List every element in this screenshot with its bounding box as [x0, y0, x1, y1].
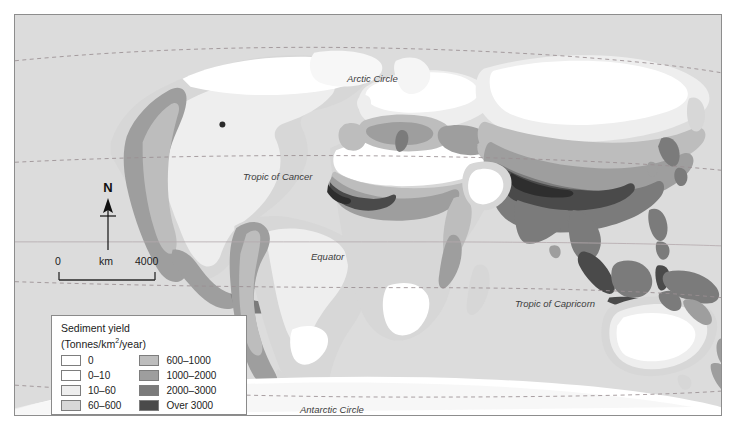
scale-bar-graphic: [55, 269, 171, 283]
legend-item: 2000–3000: [139, 384, 216, 398]
legend-item: 60–600: [61, 399, 121, 413]
legend-swatch: [139, 400, 159, 411]
legend-item: 0–10: [61, 369, 121, 383]
legend-label: 60–600: [88, 400, 121, 411]
legend-swatch: [61, 370, 81, 381]
scale-min-label: 0: [55, 255, 61, 267]
legend-label: Over 3000: [166, 400, 213, 411]
legend-column-left: 0 0–10 10–60 60–600: [61, 354, 121, 414]
label-equator: Equator: [311, 251, 344, 262]
legend-label: 0: [88, 355, 94, 366]
legend-box: Sediment yield (Tonnes/km2/year) 0 0–10: [51, 315, 247, 415]
map-frame: Arctic Circle Tropic of Cancer Equator T…: [14, 14, 722, 416]
label-arctic-circle: Arctic Circle: [347, 73, 398, 84]
legend-swatch: [61, 400, 81, 411]
legend-column-right: 600–1000 1000–2000 2000–3000 Over 3000: [139, 354, 216, 414]
legend-label: 10–60: [88, 385, 116, 396]
legend-swatch: [61, 355, 81, 366]
north-arrow-label: N: [93, 181, 123, 194]
legend-swatch: [61, 385, 81, 396]
legend-item: 10–60: [61, 384, 121, 398]
legend-item: Over 3000: [139, 399, 216, 413]
scale-max-label: 4000: [135, 255, 158, 267]
scale-bar-labels: 0 km 4000: [55, 255, 171, 269]
legend-title-line2: (Tonnes/km2/year): [61, 335, 238, 350]
legend-columns: 0 0–10 10–60 60–600: [61, 354, 238, 414]
legend-item: 600–1000: [139, 354, 216, 368]
legend-swatch: [139, 355, 159, 366]
legend-label: 600–1000: [166, 355, 211, 366]
legend-unit-prefix: (Tonnes/km: [61, 337, 115, 349]
projection-note: Winkel equal area projection: [619, 413, 722, 416]
legend-item: 0: [61, 354, 121, 368]
legend-unit-suffix: /year): [119, 337, 146, 349]
north-arrow: N: [93, 181, 123, 253]
scale-unit-label: km: [99, 255, 113, 267]
scale-bar: 0 km 4000: [55, 255, 171, 285]
north-arrow-icon: [93, 194, 123, 252]
legend-label: 2000–3000: [166, 385, 216, 396]
legend-title-line1: Sediment yield: [61, 322, 238, 335]
label-antarctic-circle: Antarctic Circle: [300, 404, 364, 415]
label-tropic-of-capricorn: Tropic of Capricorn: [515, 298, 595, 309]
legend-label: 0–10: [88, 370, 110, 381]
legend-swatch: [139, 370, 159, 381]
legend-swatch: [139, 385, 159, 396]
page-root: Arctic Circle Tropic of Cancer Equator T…: [0, 0, 736, 437]
label-tropic-of-cancer: Tropic of Cancer: [243, 171, 313, 182]
legend-label: 1000–2000: [166, 370, 216, 381]
legend-item: 1000–2000: [139, 369, 216, 383]
